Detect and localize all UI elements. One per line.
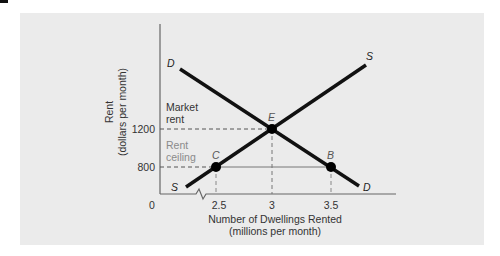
origin-label: 0	[149, 199, 155, 211]
point-e	[267, 124, 277, 134]
rent-ceiling-label-2: ceiling	[166, 151, 196, 163]
point-b-label: B	[327, 149, 334, 161]
x-tick-2-5: 2.5	[212, 199, 227, 211]
x-tick-3-5: 3.5	[324, 199, 339, 211]
demand-label-top: D	[167, 57, 175, 69]
point-c-label: C	[212, 149, 220, 161]
x-axis-title: Number of Dwellings Rented	[208, 213, 342, 225]
supply-label-bottom: S	[171, 181, 178, 193]
rent-ceiling-label-1: Rent	[166, 139, 188, 151]
x-tick-3: 3	[269, 199, 275, 211]
x-axis-subtitle: (millions per month)	[229, 225, 321, 237]
supply-label-top: S	[366, 50, 373, 62]
demand-label-bottom: D	[363, 181, 371, 193]
y-tick-1200: 1200	[132, 123, 156, 135]
y-tick-800: 800	[137, 161, 155, 173]
point-e-label: E	[268, 111, 276, 123]
market-rent-label-2: rent	[166, 113, 184, 125]
point-c	[211, 162, 221, 172]
y-axis-subtitle: (dollars per month)	[116, 68, 128, 156]
chart-svg: D D S S E C B Market rent Rent ceiling 1…	[0, 0, 500, 256]
x-axis-with-break	[160, 189, 396, 199]
point-b	[326, 162, 336, 172]
market-rent-label-1: Market	[166, 101, 198, 113]
y-axis-title: Rent	[103, 101, 115, 123]
